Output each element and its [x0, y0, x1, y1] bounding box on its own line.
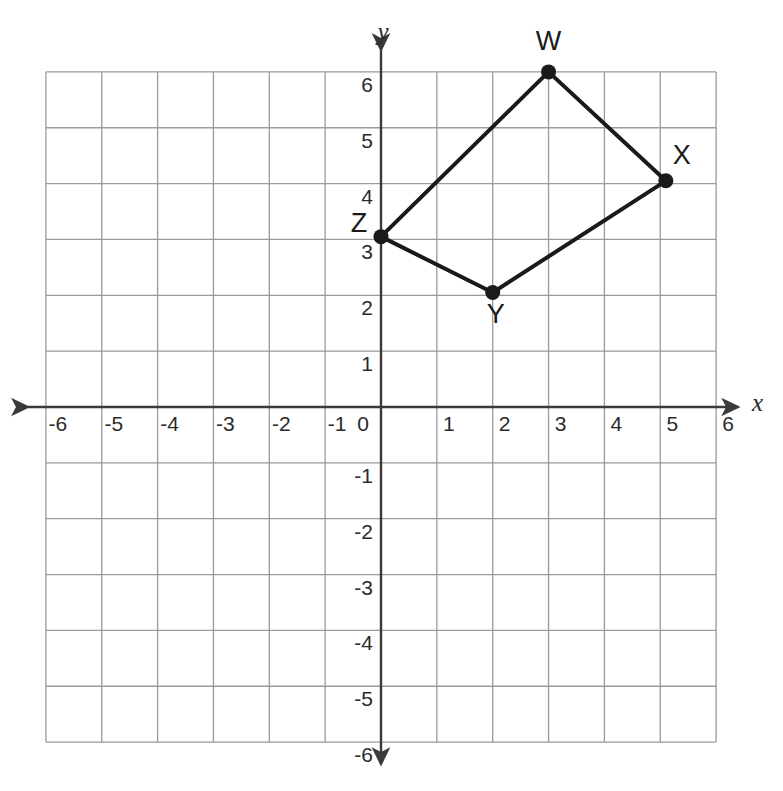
- y-tick-label: 4: [361, 185, 373, 208]
- vertex-label-y: Y: [487, 299, 505, 329]
- coordinate-plane-figure: -6-5-4-3-2-10123456654321-1-2-3-4-5-6 xy…: [0, 0, 783, 791]
- polygon-wxyz: [381, 72, 666, 293]
- y-tick-label: -6: [354, 743, 373, 766]
- y-tick-label: -2: [354, 520, 373, 543]
- x-tick-label: -4: [160, 412, 179, 435]
- y-tick-label: -5: [354, 687, 373, 710]
- vertex-point-w: [541, 64, 556, 79]
- x-tick-label: 0: [357, 412, 369, 435]
- y-tick-label: -3: [354, 576, 373, 599]
- x-tick-label: 4: [611, 412, 623, 435]
- vertex-label-x: X: [673, 140, 691, 170]
- vertex-label-z: Z: [351, 208, 368, 238]
- y-tick-label: 3: [361, 240, 373, 263]
- axis-name-labels: xy: [374, 18, 763, 416]
- x-tick-label: 2: [499, 412, 511, 435]
- x-tick-label: -5: [104, 412, 123, 435]
- y-tick-label: -4: [354, 631, 373, 654]
- x-tick-label: 5: [666, 412, 678, 435]
- y-tick-label: 5: [361, 129, 373, 152]
- vertex-points: [374, 64, 674, 300]
- vertex-point-x: [658, 173, 673, 188]
- y-tick-label: 1: [361, 352, 373, 375]
- x-tick-label: 1: [443, 412, 455, 435]
- x-tick-label: -6: [49, 412, 68, 435]
- vertex-point-z: [374, 229, 389, 244]
- plot-svg: -6-5-4-3-2-10123456654321-1-2-3-4-5-6 xy…: [0, 0, 783, 791]
- y-tick-label: 2: [361, 296, 373, 319]
- tick-labels: -6-5-4-3-2-10123456654321-1-2-3-4-5-6: [49, 73, 734, 766]
- x-tick-label: 6: [722, 412, 734, 435]
- y-tick-label: 6: [361, 73, 373, 96]
- polygon-outline: [381, 72, 666, 293]
- x-tick-label: 3: [555, 412, 567, 435]
- x-tick-label: -3: [216, 412, 235, 435]
- x-tick-label: -2: [272, 412, 291, 435]
- axis-lines: [28, 50, 738, 764]
- vertex-label-w: W: [536, 26, 562, 56]
- x-tick-label: -1: [328, 412, 347, 435]
- x-axis-label: x: [751, 389, 763, 416]
- y-tick-label: -1: [354, 464, 373, 487]
- y-axis-label: y: [374, 18, 389, 45]
